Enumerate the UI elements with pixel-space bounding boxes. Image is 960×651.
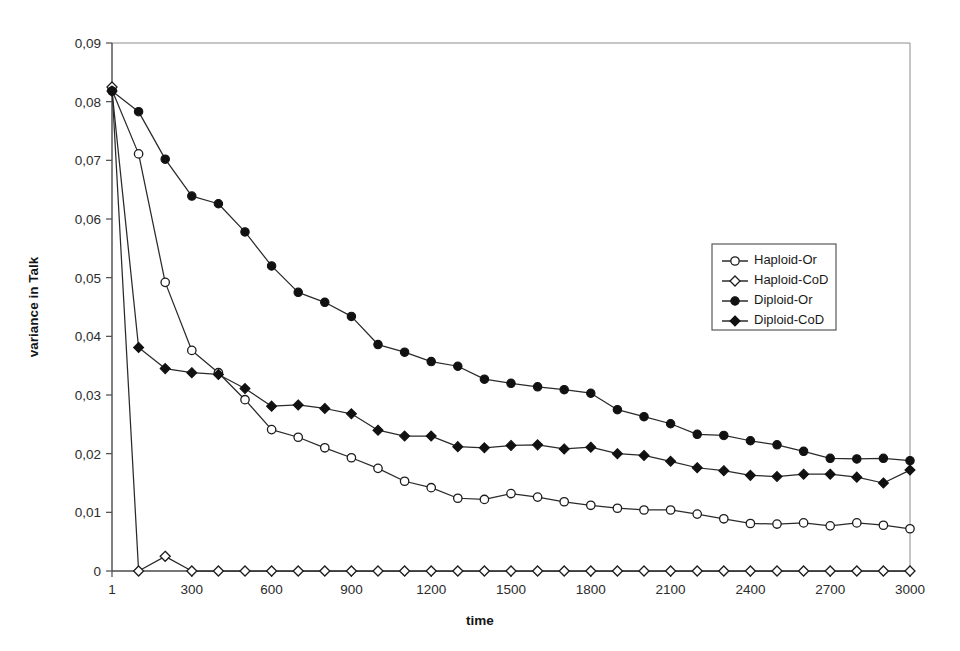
data-point-marker: [427, 483, 435, 491]
data-point-marker: [161, 155, 169, 163]
data-point-marker: [773, 441, 781, 449]
x-tick-label: 600: [260, 582, 283, 597]
data-point-marker: [799, 447, 807, 455]
data-point-marker: [347, 454, 355, 462]
data-point-marker: [853, 519, 861, 527]
data-point-marker: [720, 515, 728, 523]
data-point-marker: [507, 379, 515, 387]
data-point-marker: [400, 477, 408, 485]
data-point-marker: [640, 413, 648, 421]
y-tick-label: 0: [93, 564, 101, 579]
y-tick-label: 0,05: [75, 271, 101, 286]
data-point-marker: [507, 489, 515, 497]
x-tick-label: 2400: [735, 582, 765, 597]
data-point-marker: [613, 405, 621, 413]
y-axis-ticks: 00,010,020,030,040,050,060,070,080,09: [75, 36, 112, 579]
data-point-marker: [427, 357, 435, 365]
data-point-marker: [161, 278, 169, 286]
data-point-marker: [693, 430, 701, 438]
data-point-marker: [693, 510, 701, 518]
x-tick-label: 1200: [416, 582, 446, 597]
y-tick-label: 0,01: [75, 505, 101, 520]
x-axis-title: time: [466, 613, 494, 628]
variance-in-talk-line-chart: 00,010,020,030,040,050,060,070,080,09 13…: [0, 0, 960, 651]
data-point-marker: [533, 493, 541, 501]
data-point-marker: [666, 506, 674, 514]
legend-label: Diploid-CoD: [754, 312, 824, 327]
y-axis-title: variance in Talk: [26, 256, 41, 357]
data-point-marker: [267, 262, 275, 270]
data-point-marker: [480, 495, 488, 503]
y-tick-label: 0,08: [75, 95, 101, 110]
y-tick-label: 0,06: [75, 212, 101, 227]
x-tick-label: 1800: [576, 582, 606, 597]
data-point-marker: [560, 498, 568, 506]
x-tick-label: 2100: [656, 582, 686, 597]
data-point-marker: [746, 437, 754, 445]
data-point-marker: [188, 192, 196, 200]
legend-marker-icon: [731, 297, 739, 305]
y-tick-label: 0,04: [75, 329, 102, 344]
data-point-marker: [134, 150, 142, 158]
data-point-marker: [321, 444, 329, 452]
data-point-marker: [587, 389, 595, 397]
data-point-marker: [374, 464, 382, 472]
data-point-marker: [400, 348, 408, 356]
data-point-marker: [640, 506, 648, 514]
data-point-marker: [826, 454, 834, 462]
data-point-marker: [613, 504, 621, 512]
data-point-marker: [826, 522, 834, 530]
y-tick-label: 0,03: [75, 388, 101, 403]
y-tick-label: 0,07: [75, 153, 101, 168]
data-point-marker: [906, 525, 914, 533]
data-point-marker: [454, 494, 462, 502]
x-tick-label: 1500: [496, 582, 526, 597]
data-point-marker: [241, 228, 249, 236]
y-tick-label: 0,02: [75, 447, 101, 462]
data-point-marker: [560, 386, 568, 394]
data-point-marker: [746, 519, 754, 527]
data-point-marker: [188, 346, 196, 354]
data-point-marker: [533, 383, 541, 391]
data-point-marker: [906, 457, 914, 465]
x-tick-label: 300: [181, 582, 204, 597]
data-point-marker: [853, 455, 861, 463]
data-point-marker: [321, 298, 329, 306]
data-point-marker: [134, 107, 142, 115]
legend-label: Diploid-Or: [754, 292, 813, 307]
legend-label: Haploid-Or: [754, 252, 818, 267]
data-point-marker: [480, 375, 488, 383]
legend-marker-icon: [731, 257, 739, 265]
legend-label: Haploid-CoD: [754, 272, 828, 287]
data-point-marker: [454, 362, 462, 370]
data-point-marker: [241, 395, 249, 403]
data-point-marker: [587, 501, 595, 509]
chart-figure: 00,010,020,030,040,050,060,070,080,09 13…: [0, 0, 960, 651]
data-point-marker: [374, 340, 382, 348]
data-point-marker: [294, 433, 302, 441]
x-tick-label: 1: [108, 582, 116, 597]
x-tick-label: 2700: [815, 582, 845, 597]
x-tick-label: 3000: [895, 582, 925, 597]
y-tick-label: 0,09: [75, 36, 101, 51]
data-point-marker: [347, 312, 355, 320]
data-point-marker: [720, 431, 728, 439]
chart-legend: Haploid-OrHaploid-CoDDiploid-OrDiploid-C…: [712, 244, 836, 330]
data-point-marker: [879, 454, 887, 462]
x-tick-label: 900: [340, 582, 363, 597]
data-point-marker: [773, 520, 781, 528]
data-point-marker: [294, 288, 302, 296]
data-point-marker: [267, 425, 275, 433]
data-point-marker: [799, 519, 807, 527]
data-point-marker: [666, 420, 674, 428]
data-point-marker: [879, 521, 887, 529]
data-point-marker: [214, 200, 222, 208]
